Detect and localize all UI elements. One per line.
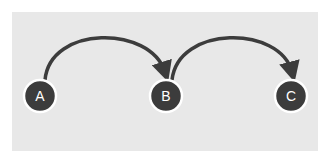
node-b-label: B xyxy=(161,88,170,104)
node-b: B xyxy=(150,80,182,112)
node-c-label: C xyxy=(286,88,296,104)
edge-b-to-c xyxy=(172,38,292,80)
node-a-label: A xyxy=(35,88,45,104)
node-a: A xyxy=(24,80,56,112)
flow-diagram: A B C xyxy=(0,0,326,160)
node-c: C xyxy=(275,80,307,112)
edge-a-to-b xyxy=(45,38,165,80)
